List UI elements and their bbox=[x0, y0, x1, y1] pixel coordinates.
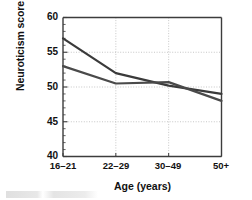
data-line-1 bbox=[63, 38, 222, 94]
plot-area bbox=[0, 0, 252, 200]
cropped-caption-artifact bbox=[6, 191, 98, 198]
gridlines bbox=[63, 18, 222, 157]
data-series-group bbox=[63, 38, 222, 101]
data-line-2 bbox=[63, 66, 222, 101]
chart-figure: Neuroticism score 60 55 50 45 40 16–21 2… bbox=[0, 0, 252, 200]
